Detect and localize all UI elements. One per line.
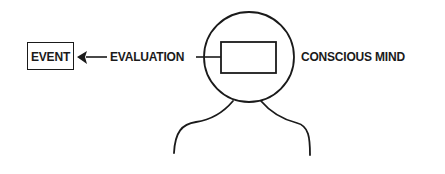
left-shoulder (174, 101, 233, 153)
event-label: EVENT (31, 50, 70, 64)
conscious-mind-diagram: EVENT EVALUATION CONSCIOUS MIND (0, 0, 445, 174)
right-shoulder (261, 101, 310, 155)
evaluation-label: EVALUATION (110, 50, 184, 64)
conscious-mind-label: CONSCIOUS MIND (301, 50, 405, 64)
diagram-drawing (0, 0, 445, 174)
mind-box (221, 42, 276, 73)
arrow-head-icon (77, 51, 87, 64)
